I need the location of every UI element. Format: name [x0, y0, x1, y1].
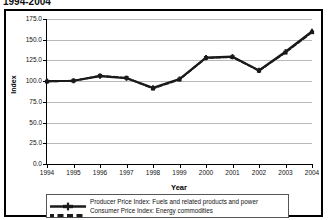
y-tick-label: 100.0: [26, 78, 42, 85]
x-tick-label: 2003: [278, 169, 292, 176]
y-tick-label: 25.0: [29, 140, 42, 147]
x-tick: [180, 164, 181, 168]
x-tick-label: 2000: [199, 169, 213, 176]
x-tick-label: 1994: [40, 169, 54, 176]
y-tick-label: 0.0: [33, 161, 42, 168]
ppi-line-marker-icon: [50, 197, 86, 206]
x-tick: [206, 164, 207, 168]
x-tick-label: 1997: [119, 169, 133, 176]
page-title: 1994-2004: [3, 0, 51, 7]
x-tick: [286, 164, 287, 168]
cpi-dashed-marker-icon: [50, 206, 86, 215]
legend-item-cpi: Consumer Price Index: Energy commodities: [50, 206, 285, 215]
x-tick-label: 1998: [146, 169, 160, 176]
legend-label-cpi: Consumer Price Index: Energy commodities: [90, 207, 213, 214]
chart-legend: Producer Price Index: Fuels and related …: [46, 194, 289, 218]
x-tick: [312, 164, 313, 168]
x-tick: [127, 164, 128, 168]
y-axis-title: Index: [10, 65, 17, 105]
y-tick-label: 75.0: [29, 99, 42, 106]
y-tick-label: 150.0: [26, 36, 42, 43]
x-tick-label: 1995: [66, 169, 80, 176]
y-tick-label: 50.0: [29, 119, 42, 126]
x-tick: [233, 164, 234, 168]
plot-area: 0.025.050.075.0100.0125.0150.0175.0 1994…: [46, 19, 312, 165]
x-tick: [259, 164, 260, 168]
x-tick: [47, 164, 48, 168]
x-tick: [153, 164, 154, 168]
legend-label-ppi: Producer Price Index: Fuels and related …: [90, 198, 258, 205]
series-layer: [47, 19, 312, 164]
x-tick: [74, 164, 75, 168]
x-tick-label: 2002: [252, 169, 266, 176]
x-tick: [100, 164, 101, 168]
x-axis-title: Year: [46, 183, 312, 192]
y-tick-label: 125.0: [26, 57, 42, 64]
chart-figure-frame: Index 0.025.050.075.0100.0125.0150.0175.…: [4, 9, 323, 217]
y-tick-label: 175.0: [26, 16, 42, 23]
legend-item-ppi: Producer Price Index: Fuels and related …: [50, 197, 285, 206]
x-tick-label: 1999: [172, 169, 186, 176]
x-tick-label: 1996: [93, 169, 107, 176]
x-tick-label: 2001: [225, 169, 239, 176]
x-tick-label: 2004: [305, 169, 319, 176]
